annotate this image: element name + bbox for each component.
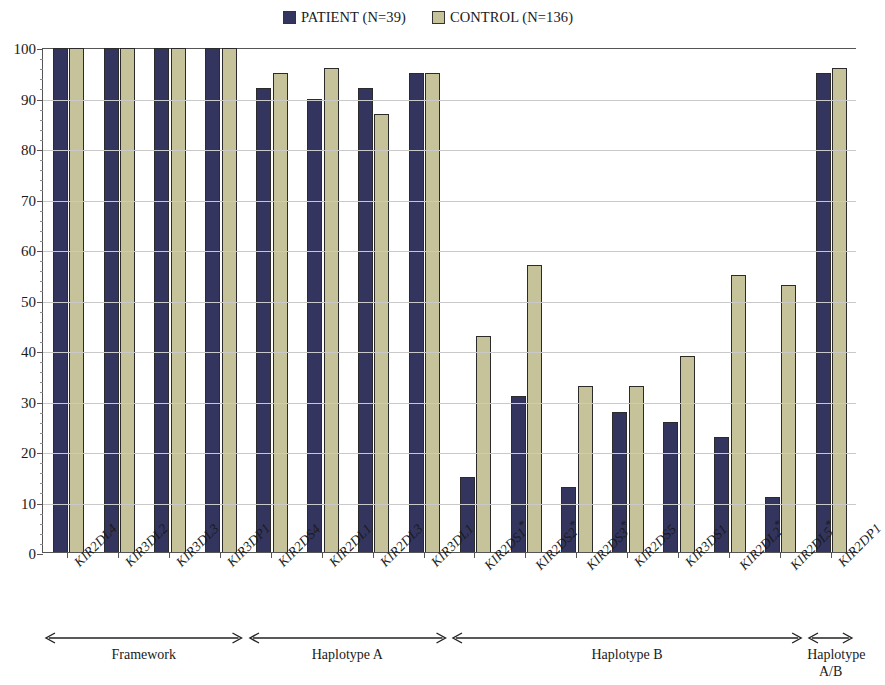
gridline [43, 201, 856, 202]
gridline [43, 251, 856, 252]
bar-control [120, 48, 135, 553]
gridline [43, 150, 856, 151]
bar-control [171, 48, 186, 553]
y-axis-tick-mark [37, 49, 43, 50]
y-axis-minor-tick [40, 544, 43, 545]
y-axis-tick-label: 70 [21, 192, 36, 209]
bar-control [374, 114, 389, 553]
y-axis-minor-tick [40, 433, 43, 434]
bar-patient [409, 73, 424, 553]
group-band: Haplotype A [248, 624, 448, 682]
x-axis-tick-mark [169, 553, 170, 558]
bar-patient [154, 48, 169, 553]
x-axis-tick-mark [627, 553, 628, 558]
y-axis-tick-label: 40 [21, 344, 36, 361]
group-band: Haplotype A/B [807, 624, 854, 682]
x-axis-tick-mark [118, 553, 119, 558]
bar-control [425, 73, 440, 553]
x-axis-tick-mark [576, 553, 577, 558]
haplotype-group-bands: FrameworkHaplotype AHaplotype BHaplotype… [42, 624, 856, 682]
bar-patient [205, 48, 220, 553]
y-axis-minor-tick [40, 372, 43, 373]
legend-label-patient: PATIENT (N=39) [301, 9, 406, 26]
y-axis-tick-label: 0 [29, 546, 37, 563]
bar-control [731, 275, 746, 553]
x-axis-tick-mark [424, 553, 425, 558]
y-axis-minor-tick [40, 473, 43, 474]
y-axis-minor-tick [40, 362, 43, 363]
y-axis-tick-label: 100 [14, 41, 37, 58]
bar-patient [816, 73, 831, 553]
y-axis-tick-label: 10 [21, 495, 36, 512]
chart-legend: PATIENT (N=39)CONTROL (N=136) [0, 4, 856, 30]
y-axis-minor-tick [40, 483, 43, 484]
y-axis-tick-label: 60 [21, 243, 36, 260]
gridline [43, 302, 856, 303]
y-axis-tick-mark [37, 453, 43, 454]
y-axis-minor-tick [40, 180, 43, 181]
y-axis-minor-tick [40, 140, 43, 141]
bar-control [273, 73, 288, 553]
y-axis-minor-tick [40, 120, 43, 121]
x-axis-tick-mark [729, 553, 730, 558]
group-label: Framework [44, 646, 244, 663]
y-axis-minor-tick [40, 332, 43, 333]
y-axis-minor-tick [40, 443, 43, 444]
bar-control [680, 356, 695, 553]
double-arrow-icon [807, 632, 854, 644]
y-axis-minor-tick [40, 342, 43, 343]
y-axis-minor-tick [40, 392, 43, 393]
group-band: Framework [44, 624, 244, 682]
group-label: Haplotype B [451, 646, 803, 663]
bar-control [476, 336, 491, 553]
x-axis-tick-mark [67, 553, 68, 558]
gridline [43, 403, 856, 404]
y-axis-tick-mark [37, 100, 43, 101]
x-axis-tick-mark [271, 553, 272, 558]
bar-control [222, 48, 237, 553]
y-axis-minor-tick [40, 524, 43, 525]
x-axis-tick-mark [525, 553, 526, 558]
y-axis-minor-tick [40, 493, 43, 494]
y-axis-minor-tick [40, 322, 43, 323]
x-axis-tick-mark [831, 553, 832, 558]
plot-area: 0102030405060708090100 [42, 48, 856, 553]
y-axis-tick-mark [37, 251, 43, 252]
bar-patient [53, 48, 68, 553]
group-label: Haplotype A/B [807, 646, 854, 680]
y-axis-minor-tick [40, 160, 43, 161]
bar-control [527, 265, 542, 553]
y-axis-minor-tick [40, 261, 43, 262]
legend-entry-control: CONTROL (N=136) [432, 9, 573, 26]
y-axis-tick-label: 20 [21, 445, 36, 462]
y-axis-tick-mark [37, 403, 43, 404]
y-axis-tick-mark [37, 150, 43, 151]
x-axis-tick-mark [322, 553, 323, 558]
y-axis-tick-label: 90 [21, 91, 36, 108]
double-arrow-icon [248, 632, 448, 644]
y-axis-minor-tick [40, 59, 43, 60]
bar-control [324, 68, 339, 553]
double-arrow-icon [451, 632, 803, 644]
y-axis-tick-label: 30 [21, 394, 36, 411]
gridline [43, 352, 856, 353]
y-axis-minor-tick [40, 231, 43, 232]
y-axis-tick-label: 80 [21, 142, 36, 159]
gridline [43, 100, 856, 101]
y-axis-minor-tick [40, 382, 43, 383]
y-axis-tick-mark [37, 504, 43, 505]
y-axis-minor-tick [40, 291, 43, 292]
y-axis-minor-tick [40, 170, 43, 171]
x-axis-tick-mark [474, 553, 475, 558]
y-axis-minor-tick [40, 221, 43, 222]
gridline [43, 504, 856, 505]
y-axis-minor-tick [40, 281, 43, 282]
y-axis-tick-mark [37, 201, 43, 202]
bar-control [781, 285, 796, 553]
x-axis-tick-mark [780, 553, 781, 558]
x-axis-tick-mark [373, 553, 374, 558]
y-axis-minor-tick [40, 130, 43, 131]
y-axis-minor-tick [40, 79, 43, 80]
y-axis-minor-tick [40, 514, 43, 515]
